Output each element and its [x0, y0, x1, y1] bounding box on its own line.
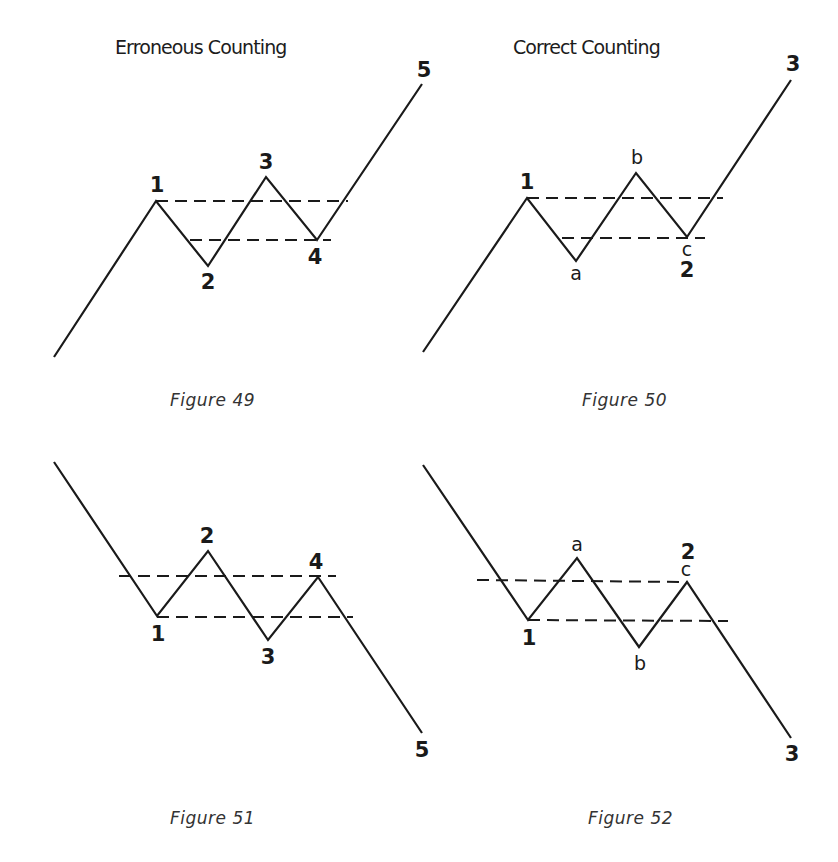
lower-dashed-line: [528, 620, 728, 621]
caption-figure-52: Figure 52: [588, 808, 673, 828]
upper-dashed-line: [477, 580, 687, 582]
wave-point-label: b: [634, 654, 646, 673]
caption-figure-50: Figure 50: [582, 390, 667, 410]
wave-point-label: 4: [308, 247, 323, 268]
wave-point-label: 1: [150, 175, 165, 196]
wave-point-label: 4: [309, 552, 324, 573]
wave-point-label: 3: [785, 744, 800, 765]
wave-point-label: a: [571, 535, 583, 554]
wave-point-label: 2: [201, 272, 216, 293]
caption-figure-49: Figure 49: [170, 390, 255, 410]
wave-point-label: 5: [417, 60, 432, 81]
wave-line: [54, 462, 422, 733]
wave-point-label: 2: [680, 260, 695, 281]
figure-51-wave: [54, 462, 422, 733]
caption-figure-51: Figure 51: [170, 808, 255, 828]
wave-diagrams: [0, 0, 838, 862]
wave-point-label: 2: [200, 526, 215, 547]
wave-point-label: 3: [786, 54, 801, 75]
wave-point-label: 2: [681, 542, 696, 563]
figure-50-wave: [423, 80, 791, 352]
wave-point-label: 5: [415, 740, 430, 761]
wave-line: [423, 465, 791, 738]
wave-point-label: a: [570, 264, 582, 283]
figure-52-wave: [423, 465, 791, 738]
figure-49-wave: [54, 84, 422, 357]
wave-line: [423, 80, 791, 352]
wave-point-label: 1: [151, 624, 166, 645]
wave-point-label: 3: [259, 152, 274, 173]
wave-point-label: 3: [261, 647, 276, 668]
wave-point-label: 1: [520, 172, 535, 193]
wave-line: [54, 84, 422, 357]
wave-point-label: c: [682, 240, 692, 259]
wave-point-label: 1: [522, 628, 537, 649]
wave-point-label: b: [631, 148, 643, 167]
